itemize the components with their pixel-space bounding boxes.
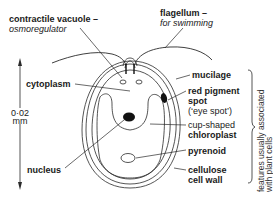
cell-body: [82, 58, 180, 188]
basal-bodies: [126, 64, 134, 74]
label-flagellum: flagellum –: [160, 8, 207, 18]
label-cellulose: cellulose: [188, 165, 227, 175]
label-red-pigment: red pigment: [188, 86, 240, 96]
label-cup-shaped: cup-shaped: [188, 120, 235, 130]
label-mucilage: mucilage: [192, 70, 231, 80]
bracket-note-line2: with plant cells: [264, 137, 273, 192]
scale-unit: mm: [6, 117, 34, 126]
flagella: [52, 47, 212, 65]
bracket: [248, 70, 255, 183]
label-pyrenoid: pyrenoid: [188, 146, 226, 156]
label-for-swimming: for swimming: [160, 18, 213, 28]
nucleus-shape: [123, 113, 135, 122]
label-spot: spot: [188, 96, 207, 106]
label-chloroplast: chloroplast: [188, 130, 237, 140]
label-eye-spot: (‘eye spot’): [188, 106, 232, 116]
label-cytoplasm: cytoplasm: [26, 79, 71, 89]
label-cell-wall: cell wall: [188, 175, 223, 185]
pyrenoid-shape: [121, 154, 135, 163]
label-contractile-vacuole: contractile vacuole –: [9, 14, 98, 24]
label-osmoregulator: osmoregulator: [9, 24, 67, 34]
label-nucleus: nucleus: [27, 165, 61, 175]
contractile-vacuoles: [120, 80, 142, 84]
